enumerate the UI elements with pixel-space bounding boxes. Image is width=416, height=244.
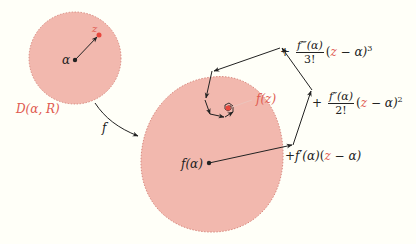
alpha-point bbox=[73, 58, 77, 62]
term-3-prefix: + bbox=[280, 45, 290, 59]
term-1-prefix: + bbox=[285, 149, 295, 163]
term-1: +f′(α)(z − α) bbox=[285, 150, 361, 162]
term-2-denominator: 2! bbox=[335, 104, 346, 116]
term-2: + f″(α) 2! (z − α)2 bbox=[312, 91, 403, 116]
term-2-numerator: f″(α) bbox=[328, 91, 354, 104]
fz-point bbox=[225, 105, 230, 110]
alpha-label: α bbox=[62, 54, 70, 66]
term-3-fraction: f‴(α) 3! bbox=[296, 40, 324, 65]
disk-label: D(α, R) bbox=[16, 103, 60, 115]
term-2-rest: − α) bbox=[367, 96, 397, 110]
term-3-numerator: f‴(α) bbox=[296, 40, 324, 53]
term-3-rest: − α) bbox=[337, 45, 367, 59]
diagram-canvas bbox=[0, 0, 416, 244]
term-3: + f‴(α) 3! (z − α)3 bbox=[280, 40, 372, 65]
term-1-rest: − α) bbox=[331, 149, 361, 163]
term-2-fraction: f″(α) 2! bbox=[328, 91, 354, 116]
term-1-coef: f′(α) bbox=[295, 149, 320, 163]
f-alpha-point bbox=[207, 161, 211, 165]
f-z-label: f(z) bbox=[256, 93, 276, 105]
term-3-denominator: 3! bbox=[304, 53, 315, 65]
term-3-power: 3 bbox=[367, 44, 372, 53]
map-f-label: f bbox=[102, 122, 106, 134]
term-2-power: 2 bbox=[398, 95, 403, 104]
z-label: z bbox=[92, 24, 97, 34]
term-2-prefix: + bbox=[312, 96, 322, 110]
f-alpha-label: f(α) bbox=[181, 158, 203, 170]
